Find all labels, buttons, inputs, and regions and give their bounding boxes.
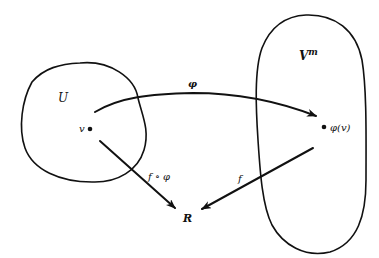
point-v-dot (88, 127, 93, 132)
commutative-diagram: U Vm v φ(v) φ f ∘ φ f R (0, 0, 379, 258)
set-vm-label: Vm (299, 47, 318, 63)
f-arrow (202, 148, 313, 209)
target-r-label: R (182, 212, 192, 225)
phi-arrow (95, 93, 316, 116)
f-arrow-label: f (237, 173, 244, 184)
set-vm-superscript: m (308, 47, 318, 57)
phi-arrow-label: φ (188, 78, 197, 89)
point-phi-v-dot (322, 125, 327, 130)
point-v-label: v (79, 123, 85, 134)
composite-arrow-label: f ∘ φ (147, 171, 170, 182)
point-phi-v-label: φ(v) (330, 122, 351, 133)
set-u-label: U (58, 91, 69, 105)
